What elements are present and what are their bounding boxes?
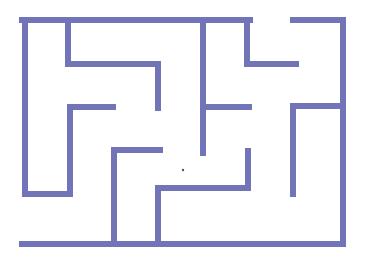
maze-background [0, 0, 365, 266]
maze-center-dot [182, 169, 184, 171]
maze-canvas [0, 0, 365, 266]
maze-drawing [0, 0, 365, 266]
